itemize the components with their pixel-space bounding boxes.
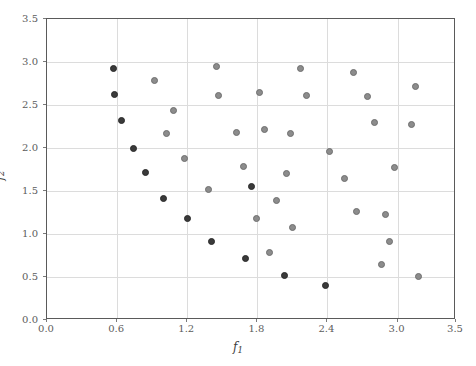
data-point bbox=[386, 238, 393, 245]
data-point bbox=[240, 163, 247, 170]
y-tick-label: 2.0 bbox=[8, 142, 38, 153]
data-point bbox=[160, 195, 167, 202]
data-point bbox=[242, 255, 249, 262]
y-axis-label: f2 bbox=[0, 170, 6, 180]
data-point bbox=[322, 282, 329, 289]
x-tick-label: 1.2 bbox=[178, 323, 194, 334]
data-point bbox=[130, 145, 137, 152]
y-axis-label-text: f bbox=[0, 176, 6, 180]
x-tick-mark bbox=[46, 319, 47, 322]
y-tick-mark bbox=[43, 18, 46, 19]
data-point bbox=[261, 126, 268, 133]
data-point bbox=[184, 215, 191, 222]
data-point bbox=[378, 261, 385, 268]
data-point bbox=[287, 130, 294, 137]
gridline-vertical bbox=[187, 19, 188, 318]
x-tick-mark bbox=[256, 319, 257, 322]
y-tick-label: 3.5 bbox=[8, 13, 38, 24]
data-point bbox=[350, 69, 357, 76]
data-point bbox=[341, 175, 348, 182]
x-tick-mark bbox=[326, 319, 327, 322]
data-point bbox=[415, 273, 422, 280]
data-point bbox=[118, 117, 125, 124]
plot-area bbox=[46, 18, 455, 319]
y-tick-label: 0.0 bbox=[8, 314, 38, 325]
data-point bbox=[248, 183, 255, 190]
y-tick-mark bbox=[43, 319, 46, 320]
y-tick-mark bbox=[43, 147, 46, 148]
y-tick-label: 1.0 bbox=[8, 228, 38, 239]
data-point bbox=[163, 130, 170, 137]
data-point bbox=[371, 119, 378, 126]
data-point bbox=[256, 89, 263, 96]
x-tick-label: 0.6 bbox=[108, 323, 124, 334]
data-point bbox=[364, 93, 371, 100]
y-tick-mark bbox=[43, 190, 46, 191]
x-tick-label: 2.4 bbox=[319, 323, 335, 334]
x-tick-label: 3.0 bbox=[389, 323, 405, 334]
x-tick-mark bbox=[455, 319, 456, 322]
y-tick-label: 0.5 bbox=[8, 271, 38, 282]
y-tick-mark bbox=[43, 61, 46, 62]
data-point bbox=[391, 164, 398, 171]
gridline-horizontal bbox=[47, 234, 454, 235]
y-tick-mark bbox=[43, 276, 46, 277]
data-point bbox=[297, 65, 304, 72]
x-axis-label: f1 bbox=[0, 340, 476, 355]
y-tick-label: 2.5 bbox=[8, 99, 38, 110]
gridline-vertical bbox=[257, 19, 258, 318]
y-tick-label: 1.5 bbox=[8, 185, 38, 196]
x-tick-mark bbox=[186, 319, 187, 322]
data-point bbox=[266, 249, 273, 256]
data-point bbox=[213, 63, 220, 70]
x-tick-mark bbox=[116, 319, 117, 322]
y-axis-label-subscript: 2 bbox=[0, 170, 6, 176]
data-point bbox=[170, 107, 177, 114]
data-point bbox=[215, 92, 222, 99]
data-point bbox=[303, 92, 310, 99]
gridline-vertical bbox=[327, 19, 328, 318]
data-point bbox=[142, 169, 149, 176]
data-point bbox=[273, 197, 280, 204]
data-point bbox=[412, 83, 419, 90]
data-point bbox=[382, 211, 389, 218]
data-point bbox=[408, 121, 415, 128]
gridline-horizontal bbox=[47, 105, 454, 106]
gridline-horizontal bbox=[47, 277, 454, 278]
x-tick-label: 0.0 bbox=[38, 323, 54, 334]
y-tick-label: 3.0 bbox=[8, 56, 38, 67]
x-axis-label-subscript: 1 bbox=[237, 345, 243, 355]
x-tick-label: 3.5 bbox=[447, 323, 463, 334]
y-tick-mark bbox=[43, 233, 46, 234]
data-point bbox=[110, 65, 117, 72]
data-point bbox=[208, 238, 215, 245]
gridline-horizontal bbox=[47, 62, 454, 63]
data-point bbox=[289, 224, 296, 231]
data-point bbox=[283, 170, 290, 177]
gridline-horizontal bbox=[47, 148, 454, 149]
data-point bbox=[205, 186, 212, 193]
data-point bbox=[326, 148, 333, 155]
data-point bbox=[233, 129, 240, 136]
data-point bbox=[253, 215, 260, 222]
y-tick-mark bbox=[43, 104, 46, 105]
x-tick-mark bbox=[397, 319, 398, 322]
data-point bbox=[281, 272, 288, 279]
gridline-vertical bbox=[117, 19, 118, 318]
data-point bbox=[151, 77, 158, 84]
data-point bbox=[353, 208, 360, 215]
scatter-plot-figure: 0.00.61.21.82.43.03.5 0.00.51.01.52.02.5… bbox=[0, 0, 476, 366]
gridline-horizontal bbox=[47, 191, 454, 192]
x-tick-label: 1.8 bbox=[248, 323, 264, 334]
gridline-vertical bbox=[398, 19, 399, 318]
